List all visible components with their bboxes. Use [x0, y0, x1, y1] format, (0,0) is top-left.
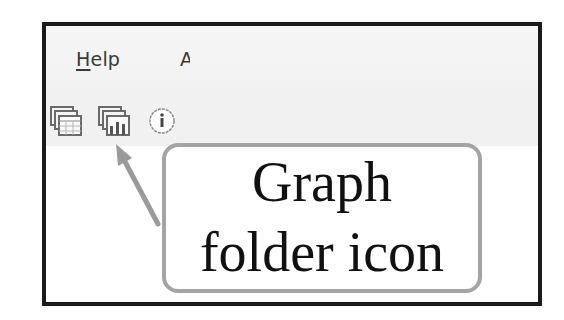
menu-bar: Help A	[46, 26, 538, 96]
info-icon[interactable]	[146, 106, 180, 144]
menu-help[interactable]: Help	[76, 48, 120, 70]
callout-line-1: Graph	[166, 147, 478, 217]
menu-item-truncated[interactable]: A	[180, 48, 190, 70]
graph-folder-icon[interactable]	[98, 106, 132, 142]
annotation-callout: Graph folder icon	[162, 143, 482, 293]
sheet-folder-icon[interactable]	[50, 106, 84, 142]
menu-help-accelerator: H	[76, 48, 91, 70]
menu-help-label: elp	[91, 48, 121, 70]
callout-line-2: folder icon	[166, 217, 478, 287]
application-window-crop: Help A	[42, 22, 542, 306]
toolbar	[46, 96, 538, 146]
